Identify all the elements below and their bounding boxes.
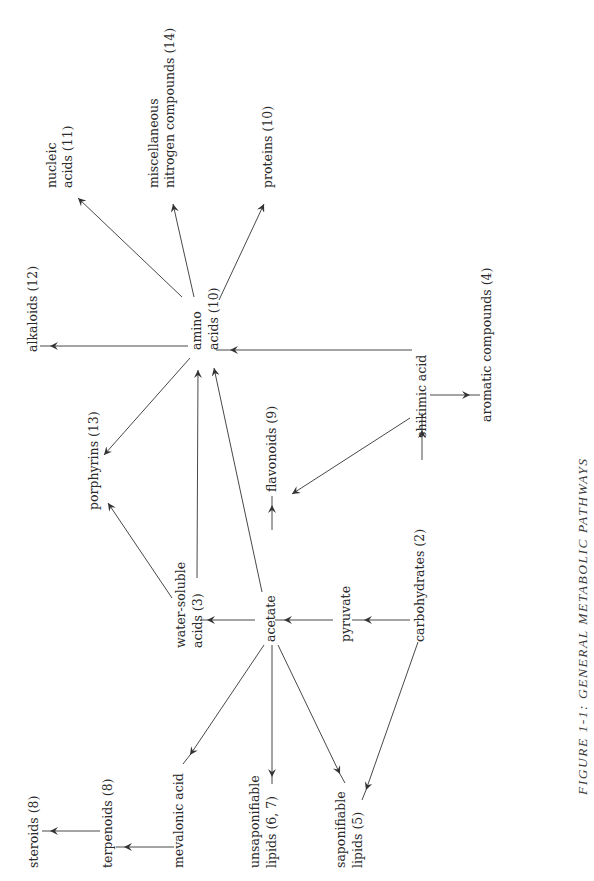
node-water-soluble-line2: acids (3) bbox=[190, 593, 205, 648]
edge-water-soluble-porphyrins bbox=[108, 503, 172, 598]
edge-amino-proteins bbox=[219, 204, 264, 300]
node-terpenoids: terpenoids (8) bbox=[100, 779, 115, 868]
edges bbox=[40, 198, 480, 847]
node-saponifiable-line2: lipids (5) bbox=[350, 812, 365, 868]
node-steroids: steroids (8) bbox=[26, 796, 41, 868]
node-porphyrins: porphyrins (13) bbox=[86, 411, 101, 510]
edge-acetate-amino bbox=[214, 368, 262, 592]
metabolic-pathways-diagram: steroids (8) terpenoids (8) mevalonic ac… bbox=[0, 0, 594, 881]
node-misc-nitrogen-line1: miscellaneous bbox=[146, 98, 161, 188]
node-amino-acids-line2: acids (10) bbox=[206, 288, 221, 351]
edge-carbohydrates-saponifiable bbox=[366, 642, 418, 790]
node-flavonoids: flavonoids (9) bbox=[264, 406, 279, 492]
node-nucleic-acids-line1: nucleic bbox=[44, 143, 59, 189]
edge-amino-misc bbox=[173, 204, 194, 297]
edge-acetate-mevalonic bbox=[190, 645, 264, 755]
node-unsaponifiable-line2: lipids (6, 7) bbox=[264, 796, 279, 868]
node-acetate: acetate bbox=[263, 595, 278, 642]
node-misc-nitrogen-line2: nitrogen compounds (14) bbox=[162, 28, 177, 188]
node-mevalonic-acid: mevalonic acid bbox=[171, 773, 186, 868]
node-aromatic-compounds: aromatic compounds (4) bbox=[479, 268, 494, 422]
node-nucleic-acids-line2: acids (11) bbox=[60, 126, 75, 189]
edge-acetate-saponifiable bbox=[278, 645, 340, 774]
node-carbohydrates: carbohydrates (2) bbox=[412, 529, 427, 642]
figure-caption: FIGURE 1-1: GENERAL METABOLIC PATHWAYS bbox=[575, 457, 590, 796]
node-water-soluble-line1: water-soluble bbox=[173, 562, 188, 648]
node-saponifiable-line1: saponifiable bbox=[333, 791, 348, 868]
edge-amino-nucleic bbox=[78, 198, 182, 297]
node-alkaloids: alkaloids (12) bbox=[25, 266, 40, 352]
node-shikimic-acid: shikimic acid bbox=[414, 355, 429, 438]
node-pyruvate: pyruvate bbox=[338, 586, 353, 642]
node-proteins: proteins (10) bbox=[260, 106, 275, 188]
edge-amino-porphyrins bbox=[104, 358, 190, 455]
edge-water-soluble-amino bbox=[197, 370, 198, 578]
nodes: steroids (8) terpenoids (8) mevalonic ac… bbox=[25, 28, 494, 868]
edge-shikimic-flavonoids bbox=[292, 418, 410, 494]
node-amino-acids-line1: amino bbox=[189, 311, 204, 350]
node-unsaponifiable-line1: unsaponifiable bbox=[247, 775, 262, 868]
